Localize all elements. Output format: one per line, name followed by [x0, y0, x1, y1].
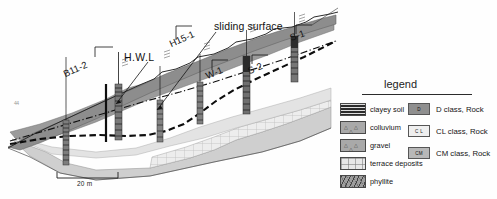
cm-class-label: CM class, Rock	[436, 149, 490, 158]
d-class-label: D class, Rock	[436, 105, 484, 114]
legend-item-phyllite: phyllite	[340, 175, 393, 188]
sliding-surface-label: sliding surface	[214, 20, 283, 32]
legend-item-d-class: D D class, Rock	[408, 103, 484, 115]
cross-section-figure: B11-2 H15-1 W-1 S-2 S-1 H.W.L sliding su…	[0, 0, 497, 199]
cl-class-swatch: C L	[408, 125, 430, 137]
cm-class-swatch: CM	[408, 147, 430, 159]
legend-item-cl-class: C L CL class, Rock	[408, 125, 488, 137]
hwl-label: H.W.L	[124, 51, 155, 63]
legend-divider	[362, 94, 472, 95]
legend-item-cm-class: CM CM class, Rock	[408, 147, 490, 159]
gravel-swatch: △ △ △	[340, 139, 366, 152]
d-class-swatch: D	[408, 103, 430, 115]
scale-bar-label: 20 m	[77, 180, 92, 187]
legend-item-clayey-soil: clayey soil	[340, 103, 404, 116]
clayey-soil-swatch	[340, 103, 366, 116]
clayey-soil-label: clayey soil	[370, 105, 404, 114]
legend-panel: legend clayey soil △ △ △ colluvium △ △ △…	[340, 78, 497, 196]
section-drawing	[0, 0, 340, 199]
cl-class-label: CL class, Rock	[436, 127, 488, 136]
legend-item-colluvium: △ △ △ colluvium	[340, 121, 401, 134]
terrace-deposits-label: terrace deposits	[370, 159, 423, 168]
colluvium-swatch: △ △ △	[340, 121, 366, 134]
legend-item-gravel: △ △ △ gravel	[340, 139, 390, 152]
leader-b11-2	[95, 47, 113, 57]
terrace-deposits-swatch	[340, 157, 366, 170]
gravel-label: gravel	[370, 141, 390, 150]
legend-title: legend	[384, 78, 417, 90]
scan-artifact-mark: 44	[14, 100, 19, 106]
phyllite-swatch	[340, 175, 366, 188]
colluvium-label: colluvium	[370, 123, 401, 132]
borehole-column-s-1	[291, 12, 298, 82]
phyllite-label: phyllite	[370, 177, 393, 186]
